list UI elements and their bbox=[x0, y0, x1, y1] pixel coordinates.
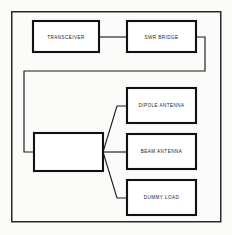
beam-antenna-label: BEAM ANTENNA bbox=[141, 149, 183, 154]
transceiver-label: TRANSCEIVER bbox=[47, 35, 85, 40]
block-beam-antenna[interactable]: BEAM ANTENNA bbox=[127, 134, 196, 169]
block-antenna-switch[interactable] bbox=[34, 133, 103, 171]
block-swr-bridge[interactable]: SWR BRIDGE bbox=[127, 21, 196, 52]
diagram-canvas: TRANSCEIVER SWR BRIDGE DIPOLE ANTENNA BE… bbox=[0, 0, 232, 235]
block-transceiver[interactable]: TRANSCEIVER bbox=[33, 21, 99, 52]
swr-bridge-label: SWR BRIDGE bbox=[144, 35, 178, 40]
block-dipole-antenna[interactable]: DIPOLE ANTENNA bbox=[127, 88, 196, 123]
connector-antenna-switch-to-dummy-load bbox=[103, 152, 127, 198]
connector-antenna-switch-to-dipole-antenna bbox=[103, 106, 127, 152]
block-diagram: TRANSCEIVER SWR BRIDGE DIPOLE ANTENNA BE… bbox=[0, 0, 232, 235]
dipole-antenna-label: DIPOLE ANTENNA bbox=[138, 103, 185, 108]
antenna-switch-box bbox=[34, 133, 103, 171]
block-dummy-load[interactable]: DUMMY LOAD bbox=[127, 180, 196, 215]
dummy-load-label: DUMMY LOAD bbox=[144, 195, 180, 200]
